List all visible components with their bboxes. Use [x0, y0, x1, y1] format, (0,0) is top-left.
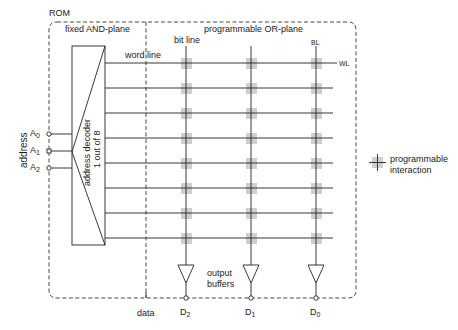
decoder-label-line2: 1 out of 8 [93, 130, 102, 168]
wl-label: WL [339, 60, 350, 67]
data-label: data [137, 309, 155, 318]
bl-label: BL [311, 39, 320, 46]
word-lines [105, 63, 337, 238]
legend-cell-icon [369, 154, 386, 171]
address-inputs [47, 132, 72, 170]
data-output-d1: D1 [245, 308, 255, 318]
and-plane-label: fixed AND-plane [65, 25, 130, 34]
word-line-label: word line [125, 51, 161, 60]
legend-label-1: programmable [390, 155, 448, 164]
output-buffers-label-1: output [207, 269, 232, 278]
data-output-d0: D0 [310, 308, 320, 318]
decoder-label-line1: address decoder [83, 119, 92, 186]
address-input-a2: A2 [30, 163, 40, 173]
address-label: address [19, 132, 29, 168]
rom-title: ROM [49, 9, 70, 18]
or-plane-label: programmable OR-plane [204, 25, 303, 34]
bit-line-label: bit line [174, 36, 200, 45]
data-output-d2: D2 [180, 308, 190, 318]
bit-lines [186, 46, 316, 296]
address-input-a0: A0 [30, 129, 40, 139]
address-input-a1: A1 [30, 146, 40, 156]
programmable-cells [181, 58, 322, 244]
output-buffers-label-2: buffers [207, 280, 234, 289]
legend-label-2: interaction [390, 166, 432, 175]
